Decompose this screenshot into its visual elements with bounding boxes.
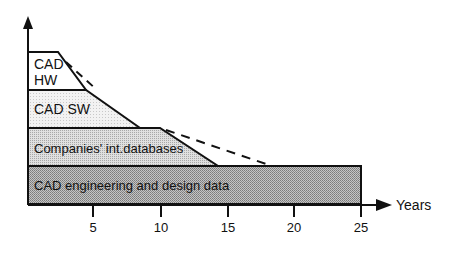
label-companies-databases: Companies' int.databases	[34, 141, 184, 156]
tick-label-10: 10	[154, 220, 168, 235]
label-cad-sw: CAD SW	[34, 101, 91, 117]
lifecycle-diagram: CAD HW CAD SW Companies' int.databases C…	[0, 0, 452, 255]
tick-label-25: 25	[354, 220, 368, 235]
label-cad-hw-line1: CAD	[34, 56, 64, 72]
label-cad-engineering: CAD engineering and design data	[34, 178, 230, 193]
arrow-right-icon	[376, 199, 392, 211]
tick-label-5: 5	[89, 220, 96, 235]
arrow-up-icon	[23, 16, 33, 29]
tick-label-20: 20	[287, 220, 301, 235]
tick-label-15: 15	[221, 220, 235, 235]
x-axis-label: Years	[396, 197, 431, 213]
label-cad-hw-line2: HW	[34, 72, 58, 88]
